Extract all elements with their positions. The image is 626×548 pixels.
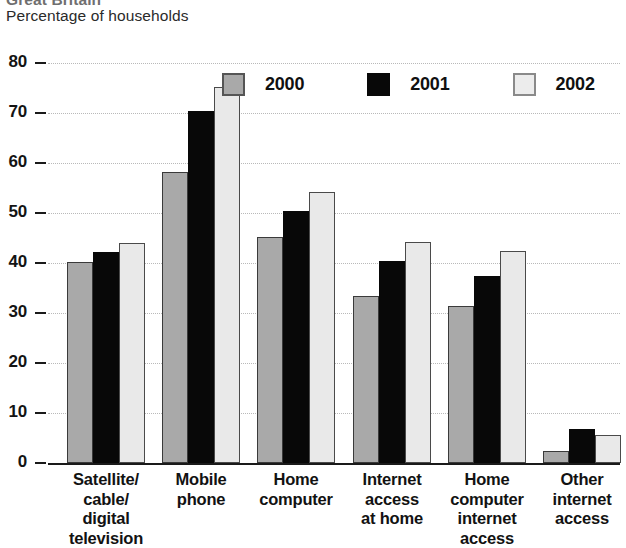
x-axis-label-line: at home: [337, 509, 447, 529]
y-tick-dash-0: [35, 462, 46, 464]
bar-2000: [448, 306, 474, 464]
y-tick-label-10: 10: [0, 402, 27, 422]
y-tick-label-30: 30: [0, 302, 27, 322]
bar-2000: [257, 237, 283, 463]
bar-2001: [474, 276, 500, 464]
chart-subtitle: Percentage of households: [6, 7, 189, 25]
bar-2001: [569, 429, 595, 463]
x-axis-label-line: access: [432, 529, 542, 548]
y-tick-dash-80: [35, 62, 46, 64]
legend-item-2001: 2001: [367, 73, 512, 96]
legend-label-2002: 2002: [556, 74, 595, 95]
x-axis-label-line: internet: [432, 509, 542, 529]
x-axis-label-line: digital: [51, 509, 161, 529]
legend-swatch-2000: [222, 73, 245, 96]
y-tick-label-60: 60: [0, 152, 27, 172]
x-axis-label-line: Home: [432, 470, 542, 490]
plot-area: 80706050403020100: [48, 63, 620, 463]
bar-2002: [595, 435, 621, 464]
bar-2000: [353, 296, 379, 464]
chart-legend: 200020012002: [222, 73, 595, 96]
legend-swatch-2002: [513, 73, 536, 96]
x-axis-label-line: Internet: [337, 470, 447, 490]
y-tick-dash-20: [35, 362, 46, 364]
bar-2002: [405, 242, 431, 464]
bar-group: [543, 63, 621, 463]
legend-label-2000: 2000: [265, 74, 304, 95]
bar-2000: [67, 262, 93, 463]
bar-group: [162, 63, 240, 463]
bar-2001: [188, 111, 214, 464]
bars-layer: [48, 63, 620, 463]
x-axis-label: Internetaccessat home: [337, 470, 447, 529]
y-tick-dash-70: [35, 112, 46, 114]
bar-2002: [309, 192, 335, 463]
x-axis-label-line: access: [337, 490, 447, 510]
legend-swatch-2001: [367, 73, 390, 96]
x-axis-label-line: access: [527, 509, 626, 529]
bar-2001: [379, 261, 405, 464]
x-axis-label-line: Home: [241, 470, 351, 490]
y-tick-label-80: 80: [0, 52, 27, 72]
y-tick-dash-40: [35, 262, 46, 264]
bar-2001: [283, 211, 309, 464]
x-axis-label-line: television: [51, 529, 161, 548]
x-axis-label: Homecomputer: [241, 470, 351, 509]
legend-item-2000: 2000: [222, 73, 367, 96]
bar-chart: Great Britain Percentage of households 8…: [0, 0, 626, 548]
x-axis-label: Satellite/cable/digitaltelevision: [51, 470, 161, 548]
bar-group: [353, 63, 431, 463]
x-axis-line: [48, 463, 620, 465]
y-tick-dash-50: [35, 212, 46, 214]
bar-group: [448, 63, 526, 463]
y-tick-dash-30: [35, 312, 46, 314]
bar-2000: [162, 172, 188, 463]
bar-2002: [119, 243, 145, 463]
x-axis-label: Mobilephone: [146, 470, 256, 509]
bar-group: [257, 63, 335, 463]
x-axis-label: Homecomputerinternetaccess: [432, 470, 542, 548]
x-axis-label-line: Satellite/: [51, 470, 161, 490]
x-axis-labels: Satellite/cable/digitaltelevisionMobilep…: [48, 470, 620, 548]
x-axis-label-line: computer: [241, 490, 351, 510]
x-axis-label-line: phone: [146, 490, 256, 510]
y-tick-label-40: 40: [0, 252, 27, 272]
y-tick-label-20: 20: [0, 352, 27, 372]
y-tick-label-50: 50: [0, 202, 27, 222]
legend-item-2002: 2002: [513, 73, 595, 96]
bar-2002: [500, 251, 526, 464]
bar-2002: [214, 87, 240, 463]
x-axis-label-line: Mobile: [146, 470, 256, 490]
bar-2001: [93, 252, 119, 463]
bar-group: [67, 63, 145, 463]
y-tick-label-0: 0: [0, 452, 27, 472]
x-axis-label-line: computer: [432, 490, 542, 510]
y-tick-dash-60: [35, 162, 46, 164]
x-axis-label: Otherinternetaccess: [527, 470, 626, 529]
x-axis-label-line: internet: [527, 490, 626, 510]
x-axis-label-line: cable/: [51, 490, 161, 510]
bar-2000: [543, 451, 569, 464]
legend-label-2001: 2001: [410, 74, 449, 95]
y-tick-label-70: 70: [0, 102, 27, 122]
y-tick-dash-10: [35, 412, 46, 414]
x-axis-label-line: Other: [527, 470, 626, 490]
